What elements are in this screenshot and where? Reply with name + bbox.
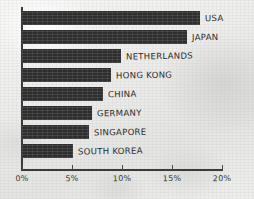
x-axis-tick-label: 15% bbox=[163, 174, 182, 183]
bar-category-label: HONG KONG bbox=[116, 69, 172, 83]
bar-row[interactable]: HONG KONG bbox=[22, 68, 231, 82]
bar[interactable] bbox=[22, 68, 111, 82]
bar[interactable] bbox=[22, 11, 200, 25]
bar-row[interactable]: USA bbox=[22, 11, 254, 25]
x-axis-tick-mark bbox=[72, 165, 73, 170]
bar-chart: 0%5%10%15%20% USAJAPANNETHERLANDSHONG KO… bbox=[0, 0, 254, 199]
bar-row[interactable]: CHINA bbox=[22, 87, 223, 101]
bar[interactable] bbox=[22, 49, 121, 63]
plot-area: 0%5%10%15%20% USAJAPANNETHERLANDSHONG KO… bbox=[0, 0, 254, 199]
bar-category-label: SOUTH KOREA bbox=[78, 144, 143, 158]
x-axis-tick-label: 20% bbox=[213, 174, 232, 183]
bar[interactable] bbox=[22, 144, 73, 158]
bar-row[interactable]: GERMANY bbox=[22, 106, 212, 120]
bar-category-label: JAPAN bbox=[192, 31, 219, 44]
bar-category-label: NETHERLANDS bbox=[126, 49, 193, 63]
bar-category-label: SINGAPORE bbox=[94, 126, 147, 140]
x-axis-tick-mark bbox=[122, 165, 123, 170]
bar-category-label: USA bbox=[205, 12, 224, 25]
bar-category-label: CHINA bbox=[108, 88, 137, 101]
bar[interactable] bbox=[22, 125, 89, 139]
x-axis-tick-label: 5% bbox=[65, 174, 78, 183]
bar-row[interactable]: SINGAPORE bbox=[22, 125, 209, 139]
bar-row[interactable]: JAPAN bbox=[22, 30, 254, 44]
bar-row[interactable]: SOUTH KOREA bbox=[22, 144, 193, 158]
x-axis-tick-mark bbox=[22, 165, 23, 170]
bar[interactable] bbox=[22, 87, 103, 101]
bar[interactable] bbox=[22, 106, 92, 120]
bar-category-label: GERMANY bbox=[97, 107, 142, 121]
bar-row[interactable]: NETHERLANDS bbox=[22, 49, 241, 63]
bar[interactable] bbox=[22, 30, 187, 44]
x-axis-tick-mark bbox=[222, 165, 223, 170]
x-axis-tick-label: 10% bbox=[113, 174, 132, 183]
x-axis-tick-label: 0% bbox=[15, 174, 28, 183]
x-axis-tick-mark bbox=[172, 165, 173, 170]
